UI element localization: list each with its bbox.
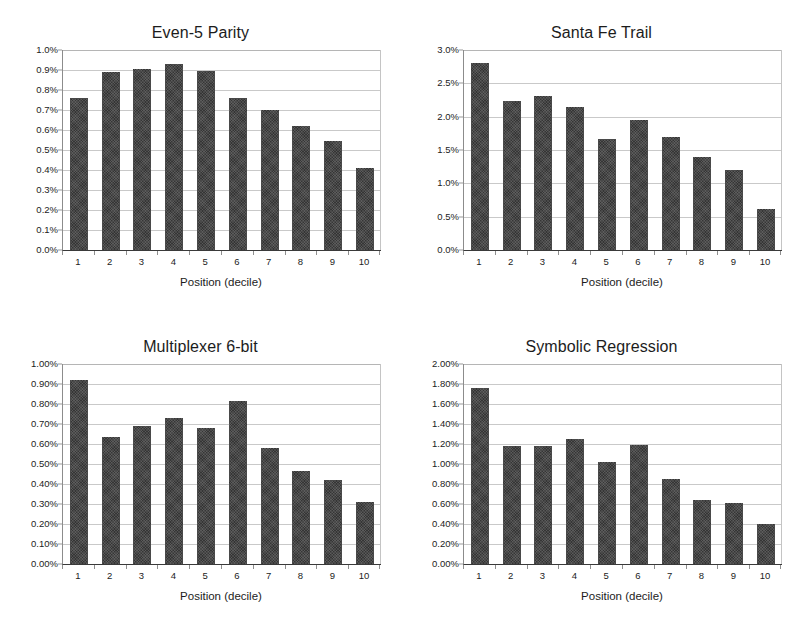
x-axis-tick-label: 1 — [463, 256, 495, 267]
y-axis-tick-label: 0.5% — [437, 212, 459, 222]
x-axis-tick-mark — [686, 565, 718, 569]
x-axis-tick-label: 1 — [62, 570, 94, 581]
x-axis-title: Position (decile) — [463, 276, 781, 288]
bar-slot — [496, 50, 528, 250]
y-axis-tick-label: 0.60% — [432, 499, 459, 509]
bar-slot — [127, 364, 159, 564]
y-axis-tick-label: 0.0% — [437, 245, 459, 255]
x-axis-tick-mark — [189, 565, 221, 569]
bar-slot — [349, 50, 381, 250]
bar-slot — [496, 364, 528, 564]
bar-slot — [591, 50, 623, 250]
x-axis-tick-mark — [463, 565, 495, 569]
y-axis-tick-label: 1.0% — [36, 45, 58, 55]
bar — [534, 446, 552, 564]
y-axis-tick-label: 1.80% — [432, 379, 459, 389]
x-axis-tick-mark — [686, 251, 718, 255]
bar — [471, 388, 489, 564]
x-axis-tick-label: 3 — [527, 256, 559, 267]
x-axis-tick-label: 6 — [622, 256, 654, 267]
bar-slot — [655, 50, 687, 250]
bar-slot — [750, 50, 782, 250]
bar-slot — [559, 50, 591, 250]
x-axis-tick-mark — [558, 565, 590, 569]
x-axis-tick-mark — [463, 251, 495, 255]
x-axis-tick-mark — [622, 251, 654, 255]
y-axis-tick-label: 0.5% — [36, 145, 58, 155]
x-axis-tick-mark — [316, 251, 348, 255]
bar — [324, 141, 342, 250]
x-axis-tick-mark — [495, 565, 527, 569]
chart-grid: Even-5 Parity0.0%0.1%0.2%0.3%0.4%0.5%0.6… — [0, 0, 802, 629]
bar-slot — [63, 50, 95, 250]
y-axis-tick-label: 2.0% — [437, 112, 459, 122]
y-axis-tick-label: 2.00% — [432, 359, 459, 369]
bar-slot — [286, 364, 318, 564]
y-axis-tick-label: 0.6% — [36, 125, 58, 135]
x-axis-tick-mark — [285, 565, 317, 569]
bars-layer — [63, 364, 381, 564]
x-axis-title: Position (decile) — [62, 590, 380, 602]
plot-area — [62, 364, 381, 565]
y-axis-tick-label: 0.20% — [31, 519, 58, 529]
y-axis-tick-label: 0.7% — [36, 105, 58, 115]
bar-slot — [591, 364, 623, 564]
bar-slot — [63, 364, 95, 564]
y-axis-tick-label: 1.00% — [432, 459, 459, 469]
bar — [133, 426, 151, 564]
x-axis-tick-mark — [622, 565, 654, 569]
x-axis-tick-label: 9 — [316, 256, 348, 267]
y-axis: 0.0%0.5%1.0%1.5%2.0%2.5%3.0% — [409, 50, 463, 250]
x-axis-tick-label: 9 — [316, 570, 348, 581]
x-axis-tick-label: 2 — [495, 256, 527, 267]
bar-slot — [95, 364, 127, 564]
bar — [662, 137, 680, 250]
bar-slot — [190, 364, 222, 564]
y-axis-tick-label: 0.20% — [432, 539, 459, 549]
plot-area — [463, 50, 782, 251]
y-axis-tick-label: 0.30% — [31, 499, 58, 509]
chart-title: Even-5 Parity — [0, 0, 401, 44]
bar-slot — [349, 364, 381, 564]
x-axis-tick-mark — [94, 251, 126, 255]
plot-area — [62, 50, 381, 251]
bar — [598, 462, 616, 564]
x-axis-tick-label: 1 — [463, 570, 495, 581]
x-axis-tick-mark — [157, 251, 189, 255]
plot-area-wrapper: 0.00%0.20%0.40%0.60%0.80%1.00%1.20%1.40%… — [401, 364, 802, 629]
bar-slot — [464, 50, 496, 250]
y-axis-tick-label: 1.40% — [432, 419, 459, 429]
y-axis-tick-label: 0.40% — [432, 519, 459, 529]
x-axis-tick-mark — [316, 565, 348, 569]
bar — [229, 401, 247, 564]
x-axis-tick-mark — [527, 251, 559, 255]
chart-title: Multiplexer 6-bit — [0, 314, 401, 358]
x-axis-tick-mark — [527, 565, 559, 569]
y-axis-tick-label: 0.40% — [31, 479, 58, 489]
x-axis-tick-label: 6 — [622, 570, 654, 581]
y-axis-tick-label: 2.5% — [437, 78, 459, 88]
bar — [566, 439, 584, 564]
x-axis-tick-label: 8 — [686, 256, 718, 267]
bar — [197, 71, 215, 250]
bars-layer — [63, 50, 381, 250]
bar-slot — [528, 364, 560, 564]
plot-area-wrapper: 0.00%0.10%0.20%0.30%0.40%0.50%0.60%0.70%… — [0, 364, 401, 629]
x-axis-tick-label: 5 — [189, 570, 221, 581]
x-axis-tick-label: 3 — [126, 570, 158, 581]
y-axis-tick-label: 0.4% — [36, 165, 58, 175]
bar-slot — [655, 364, 687, 564]
y-axis-tick-label: 0.1% — [36, 225, 58, 235]
bar-slot — [559, 364, 591, 564]
x-axis-tick-label: 8 — [285, 570, 317, 581]
bar — [102, 72, 120, 250]
y-axis-tick-label: 0.60% — [31, 439, 58, 449]
x-axis-tick-mark — [62, 251, 94, 255]
x-axis-tick-mark — [94, 565, 126, 569]
bar — [471, 63, 489, 250]
bar — [725, 503, 743, 564]
x-axis-tick-label: 4 — [157, 570, 189, 581]
x-axis-tick-mark — [285, 251, 317, 255]
plot-area-wrapper: 0.0%0.1%0.2%0.3%0.4%0.5%0.6%0.7%0.8%0.9%… — [0, 50, 401, 315]
bar — [165, 418, 183, 564]
